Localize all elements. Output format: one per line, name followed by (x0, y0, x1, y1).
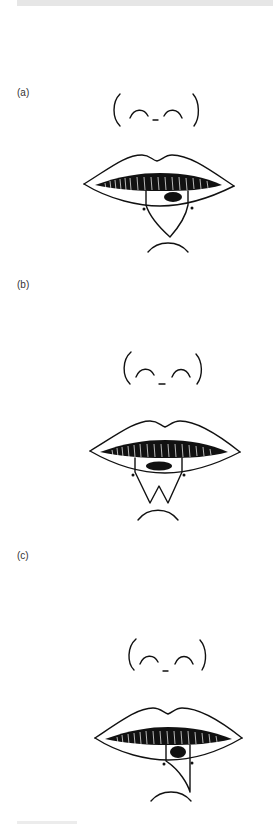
nose-icon (124, 352, 201, 384)
mouth-icon (84, 155, 234, 237)
panel-a-illustration (0, 90, 273, 260)
tongue-tip-icon (146, 462, 172, 471)
header-bar (17, 0, 273, 6)
nose-icon (114, 94, 198, 126)
chin-icon (148, 243, 188, 252)
chin-icon (151, 792, 191, 801)
tongue-tip-icon (170, 746, 186, 758)
mouth-icon (95, 708, 242, 792)
panel-b-illustration (0, 345, 273, 525)
nose-icon (129, 639, 206, 671)
panel-label-b: (b) (17, 279, 29, 290)
tongue-tip-icon (164, 192, 182, 202)
mouth-icon (90, 421, 240, 503)
panel-label-c: (c) (17, 550, 29, 561)
panel-c-illustration (0, 635, 273, 815)
chin-icon (138, 510, 178, 520)
